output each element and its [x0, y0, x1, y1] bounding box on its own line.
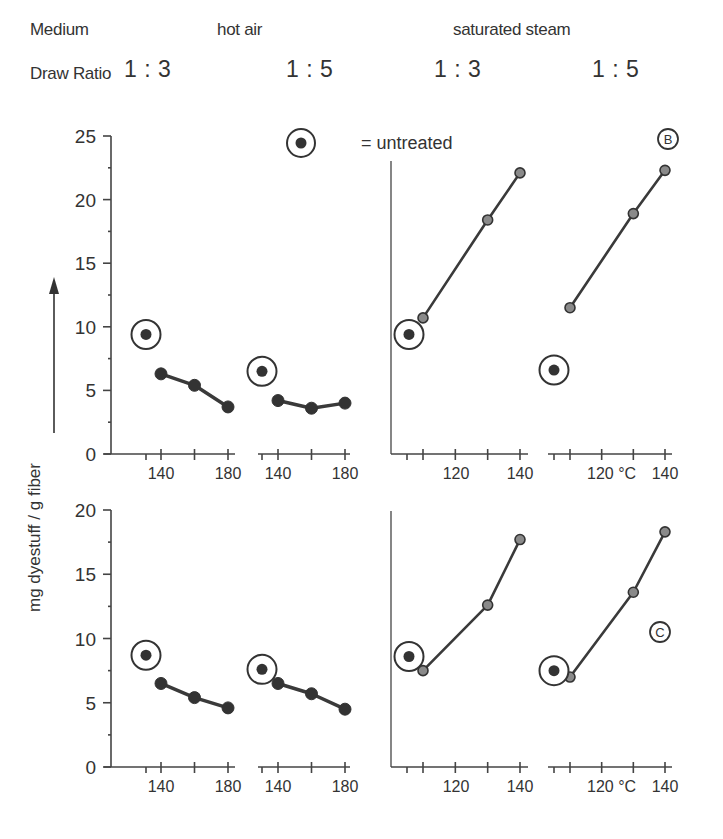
x-tick-label: 180: [332, 465, 359, 482]
data-point: [189, 692, 201, 704]
panel-tag-c-icon: C: [650, 622, 670, 642]
legend: = untreated: [287, 129, 453, 157]
data-point: [515, 535, 525, 545]
y-tick-label: 5: [85, 693, 96, 714]
subplot-1: 140180: [104, 641, 241, 795]
y-axis-label-group: mg dyestuff / g fiber: [25, 277, 59, 612]
data-point: [155, 368, 167, 380]
untreated-marker-icon: [395, 642, 424, 671]
y-tick-label: 20: [75, 500, 96, 521]
x-tick-label: 140: [265, 465, 292, 482]
subplot-3: 120140: [391, 168, 533, 482]
x-tick-label: 120: [443, 465, 470, 482]
untreated-marker-icon: [248, 655, 277, 684]
y-axis-label: mg dyestuff / g fiber: [25, 463, 44, 612]
y-tick-label: 15: [75, 253, 96, 274]
data-point: [565, 303, 575, 313]
data-point: [189, 379, 201, 391]
data-point: [339, 397, 351, 409]
data-point: [483, 600, 493, 610]
data-point: [660, 165, 670, 175]
y-tick-label: 25: [75, 126, 96, 147]
untreated-marker-icon: [395, 320, 424, 349]
subplot-3: 120140: [391, 535, 533, 795]
svg-text:B: B: [664, 132, 673, 147]
x-tick-label: 140: [265, 778, 292, 795]
legend-label: = untreated: [361, 133, 453, 153]
subplot-4: 120 °C140: [540, 527, 679, 795]
untreated-marker-icon: [132, 641, 161, 670]
data-point: [222, 702, 234, 714]
series-line: [570, 170, 665, 307]
x-tick-label: 120 °C: [587, 778, 636, 795]
data-point: [660, 527, 670, 537]
panel-tag-b-icon: B: [658, 129, 678, 149]
series-line: [423, 173, 520, 318]
subplot-2: 140180: [248, 655, 359, 795]
series-line: [570, 532, 665, 677]
panel-c: 05101520140180140180120140120 °C140: [75, 500, 679, 795]
x-tick-label: 120: [443, 778, 470, 795]
untreated-marker-icon: [540, 656, 569, 685]
x-tick-label: 140: [148, 465, 175, 482]
x-tick-label: 140: [507, 465, 534, 482]
untreated-marker-icon: [287, 129, 315, 157]
x-tick-label: 180: [215, 465, 242, 482]
data-point: [339, 703, 351, 715]
data-point: [628, 587, 638, 597]
data-point: [306, 402, 318, 414]
x-tick-label: 140: [652, 778, 679, 795]
data-point: [418, 313, 428, 323]
data-point: [222, 401, 234, 413]
untreated-marker-icon: [248, 357, 277, 386]
chart-figure: mg dyestuff / g fiber = untreated B C 05…: [0, 0, 723, 839]
subplot-1: 140180: [104, 320, 241, 482]
series-line: [423, 540, 520, 671]
data-point: [155, 677, 167, 689]
untreated-marker-icon: [132, 320, 161, 349]
subplot-2: 140180: [248, 357, 359, 482]
svg-text:C: C: [655, 625, 664, 640]
y-tick-label: 0: [85, 444, 96, 465]
data-point: [628, 209, 638, 219]
x-tick-label: 140: [507, 778, 534, 795]
x-tick-label: 180: [215, 778, 242, 795]
data-point: [515, 168, 525, 178]
x-tick-label: 120 °C: [587, 465, 636, 482]
y-tick-label: 5: [85, 380, 96, 401]
chart-plot-area: 0510152025140180140180120140120 °C140051…: [75, 126, 679, 795]
x-tick-label: 140: [148, 778, 175, 795]
subplot-4: 120 °C140: [540, 165, 679, 482]
data-point: [306, 688, 318, 700]
y-tick-label: 10: [75, 629, 96, 650]
data-point: [272, 395, 284, 407]
untreated-marker-icon: [540, 356, 569, 385]
y-tick-label: 15: [75, 564, 96, 585]
y-tick-label: 0: [85, 757, 96, 778]
x-tick-label: 140: [652, 465, 679, 482]
x-tick-label: 180: [332, 778, 359, 795]
y-tick-label: 10: [75, 317, 96, 338]
data-point: [483, 215, 493, 225]
y-tick-label: 20: [75, 190, 96, 211]
panel-b: 0510152025140180140180120140120 °C140: [75, 126, 679, 482]
up-arrow-icon: [49, 277, 59, 294]
